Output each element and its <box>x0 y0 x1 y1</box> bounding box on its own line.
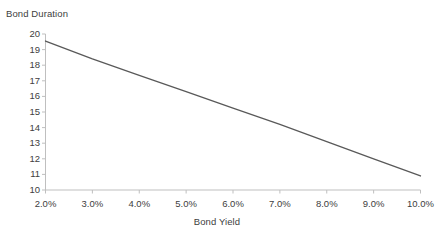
x-tick-label: 8.0% <box>304 199 350 209</box>
x-tick-label: 5.0% <box>163 199 209 209</box>
y-tick-label: 16 <box>18 91 40 101</box>
y-tick-label: 15 <box>18 107 40 117</box>
x-tick-label: 6.0% <box>210 199 256 209</box>
y-tick-label: 14 <box>18 123 40 133</box>
y-tick-label: 11 <box>18 169 40 179</box>
x-tick-label: 4.0% <box>116 199 162 209</box>
x-tick-label: 10.0% <box>398 199 439 209</box>
x-tick-label: 9.0% <box>351 199 397 209</box>
tick-marks <box>42 34 421 194</box>
axes <box>46 34 421 190</box>
y-tick-label: 10 <box>18 185 40 195</box>
y-tick-label: 12 <box>18 154 40 164</box>
x-axis-title: Bond Yield <box>0 216 434 227</box>
y-tick-label: 13 <box>18 138 40 148</box>
y-tick-label: 17 <box>18 76 40 86</box>
x-tick-label: 2.0% <box>23 199 69 209</box>
x-tick-label: 7.0% <box>257 199 303 209</box>
data-series-line <box>46 41 421 176</box>
y-tick-label: 18 <box>18 60 40 70</box>
x-tick-label: 3.0% <box>69 199 115 209</box>
y-tick-label: 20 <box>18 29 40 39</box>
y-tick-label: 19 <box>18 45 40 55</box>
